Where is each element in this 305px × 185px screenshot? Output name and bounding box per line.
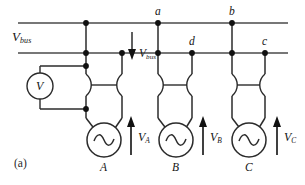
- junction-dot-node-b: [229, 20, 235, 26]
- branch-c: [232, 23, 266, 157]
- figure-caption-text: (a): [14, 157, 27, 169]
- generator-b-label-text: B: [172, 161, 179, 173]
- voltmeter-label-text: V: [36, 79, 43, 93]
- bus-voltage-label-subscript: bus: [20, 36, 31, 45]
- junction-dot-voltmeter-top: [83, 63, 89, 69]
- breaker-a-left-contact: [86, 74, 91, 96]
- junction-dot-node-b-lower-bus: [229, 50, 235, 56]
- bus-voltage-label: Vbus: [12, 30, 31, 43]
- node-label-c: c: [262, 36, 267, 48]
- generator-b-voltage-subscript: B: [217, 136, 222, 145]
- junction-dot-node-d: [189, 50, 195, 56]
- circuit-schematic-svg: [0, 0, 305, 185]
- branch-a: [86, 23, 122, 157]
- junction-dot-branch-a-upper-bus: [83, 20, 89, 26]
- junction-dot-voltmeter-bottom: [83, 106, 89, 112]
- breaker-c-left-contact: [232, 74, 237, 96]
- generator-a-voltage-label: VA: [138, 131, 150, 143]
- generator-c-voltage-label: VC: [284, 131, 296, 143]
- node-label-b-text: b: [229, 5, 235, 17]
- generator-c-label: C: [245, 162, 253, 174]
- node-label-a-text: a: [155, 5, 161, 17]
- voltmeter-label: V: [36, 80, 43, 92]
- vc-arrow-head: [273, 116, 281, 127]
- node-label-b: b: [229, 6, 235, 18]
- breaker-b-right-contact: [187, 74, 192, 96]
- bus-arrow-voltage-label-base: V: [139, 47, 146, 59]
- vb-arrow-head: [199, 116, 207, 127]
- bus-arrow-voltage-label-subscript: bus: [146, 53, 156, 61]
- branch-b: [158, 23, 193, 157]
- generator-c-label-text: C: [245, 161, 253, 173]
- circuit-diagram-figure: Vbus Vbus V a b c d A B C VA VB VC (a): [0, 0, 305, 185]
- generator-a-label: A: [100, 162, 107, 174]
- breaker-a-right-contact: [117, 74, 122, 96]
- junction-dot-node-c: [262, 50, 268, 56]
- bus-arrow-voltage-label: Vbus: [139, 48, 156, 60]
- bus-voltage-arrow: [128, 32, 136, 60]
- generator-c-voltage-subscript: C: [291, 136, 296, 145]
- junction-dot-branch-a-bus-tap: [119, 50, 125, 56]
- bus-voltage-label-base: V: [12, 29, 20, 44]
- node-label-d: d: [189, 36, 195, 48]
- generator-b-voltage-label: VB: [210, 131, 222, 143]
- node-label-d-text: d: [189, 35, 195, 47]
- node-label-c-text: c: [262, 35, 267, 47]
- junction-dot-branch-a-lower-bus: [83, 50, 89, 56]
- generator-b-label: B: [172, 162, 179, 174]
- junction-dot-node-a: [155, 20, 161, 26]
- va-arrow-head: [127, 116, 135, 127]
- breaker-b-left-contact: [158, 74, 163, 96]
- generator-a-voltage-subscript: A: [145, 136, 150, 145]
- bus-voltage-arrow-head: [128, 49, 136, 60]
- breaker-c-right-contact: [260, 74, 265, 96]
- generator-a-label-text: A: [100, 161, 107, 173]
- connection-nodes: [83, 20, 268, 112]
- figure-caption: (a): [14, 158, 27, 170]
- node-label-a: a: [155, 6, 161, 18]
